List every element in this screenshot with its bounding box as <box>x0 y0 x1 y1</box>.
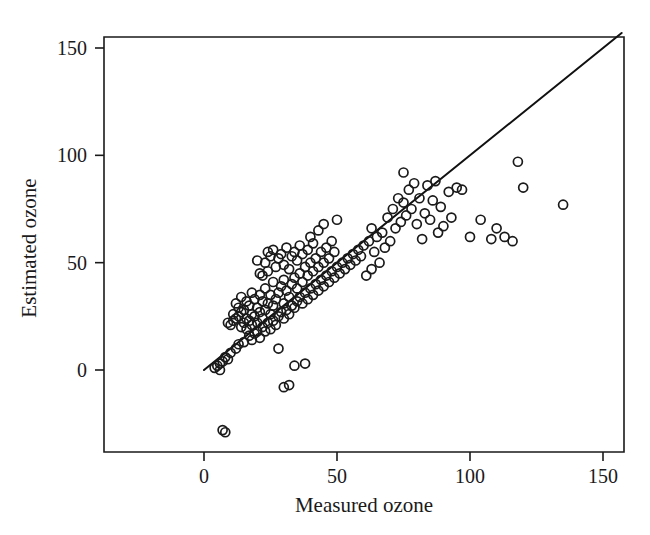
data-point <box>519 183 528 192</box>
data-point <box>492 224 501 233</box>
x-axis-title: Measured ozone <box>295 493 433 517</box>
x-axis-ticks <box>204 452 603 461</box>
data-point <box>399 168 408 177</box>
data-point <box>367 265 376 274</box>
data-point <box>452 183 461 192</box>
data-point <box>407 205 416 214</box>
data-point <box>285 381 294 390</box>
scatter-points <box>210 157 567 436</box>
data-point <box>487 235 496 244</box>
plot-frame <box>104 37 624 452</box>
data-point <box>466 232 475 241</box>
data-point <box>327 237 336 246</box>
data-point <box>301 359 310 368</box>
y-tick-label-0: 0 <box>77 359 87 381</box>
data-point <box>279 383 288 392</box>
data-point <box>559 200 568 209</box>
data-point <box>333 215 342 224</box>
data-point <box>370 247 379 256</box>
data-point <box>319 220 328 229</box>
data-point <box>386 237 395 246</box>
data-point <box>330 247 339 256</box>
data-point <box>426 215 435 224</box>
data-point <box>274 344 283 353</box>
y-tick-label-50: 50 <box>67 252 87 274</box>
y-axis-title: Estimated ozone <box>17 178 41 317</box>
x-tick-label-0: 0 <box>199 465 209 487</box>
data-point <box>418 235 427 244</box>
plot-canvas: 050100150 050100150 Measured ozone Estim… <box>0 0 650 535</box>
data-point <box>476 215 485 224</box>
data-point <box>375 258 384 267</box>
data-point <box>410 179 419 188</box>
data-point <box>428 196 437 205</box>
data-point <box>458 185 467 194</box>
x-tick-label-150: 150 <box>588 465 618 487</box>
data-point <box>447 213 456 222</box>
y-axis-tick-labels: 050100150 <box>57 37 87 381</box>
x-tick-label-50: 50 <box>327 465 347 487</box>
scatter-plot-figure: 050100150 050100150 Measured ozone Estim… <box>0 0 650 535</box>
data-point <box>221 428 230 437</box>
x-tick-label-100: 100 <box>455 465 485 487</box>
data-point <box>388 205 397 214</box>
data-point <box>508 237 517 246</box>
data-point <box>367 224 376 233</box>
y-axis-ticks <box>95 48 104 370</box>
data-point <box>436 202 445 211</box>
data-point <box>290 361 299 370</box>
data-point <box>412 220 421 229</box>
data-point <box>439 222 448 231</box>
y-tick-label-100: 100 <box>57 144 87 166</box>
y-tick-label-150: 150 <box>57 37 87 59</box>
data-point <box>513 157 522 166</box>
x-axis-tick-labels: 050100150 <box>199 465 618 487</box>
